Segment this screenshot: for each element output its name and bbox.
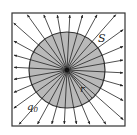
- surface-label: S: [98, 32, 106, 45]
- field-line-diagram: S r q0: [0, 0, 137, 135]
- charge-label: q0: [27, 101, 38, 114]
